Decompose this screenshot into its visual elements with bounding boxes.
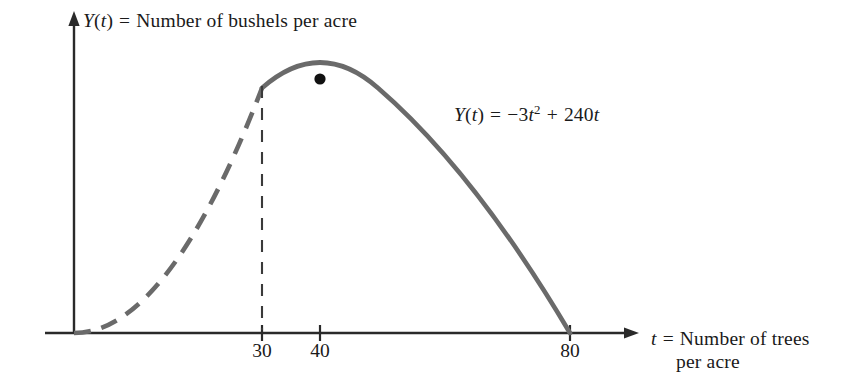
equation-linear-coefficient: 240 xyxy=(564,104,594,125)
x-tick-label-30: 30 xyxy=(252,340,272,362)
y-axis-label-paren-open: ( xyxy=(94,10,101,31)
equation-paren-open: ( xyxy=(465,104,472,125)
x-axis-label-equals: = xyxy=(657,328,680,349)
y-axis-label-variable: Y xyxy=(83,10,94,31)
x-axis-label: t=Number of trees per acre xyxy=(651,327,810,373)
curve-dashed-segment xyxy=(74,88,262,333)
x-axis-label-line2: per acre xyxy=(651,350,810,373)
equation-annotation: Y(t)=−3t2+240t xyxy=(454,103,599,126)
y-axis-label: Y(t)=Number of bushels per acre xyxy=(83,9,357,32)
x-axis xyxy=(45,327,639,338)
equation-exponent: 2 xyxy=(534,103,541,117)
y-axis-arrowhead xyxy=(68,11,79,26)
x-axis-label-variable: t xyxy=(651,328,657,349)
x-tick-label-80: 80 xyxy=(560,340,580,362)
y-axis xyxy=(68,11,79,333)
equation-plus: + xyxy=(541,104,564,125)
x-axis-arrowhead xyxy=(624,327,639,338)
y-axis-label-equals: = xyxy=(113,10,136,31)
equation-equals: = xyxy=(484,104,507,125)
equation-coefficient: 3 xyxy=(518,104,528,125)
x-tick-label-40: 40 xyxy=(310,340,330,362)
y-axis-label-text: Number of bushels per acre xyxy=(136,10,357,31)
vertex-marker-dot xyxy=(314,73,325,84)
x-axis-label-line1: Number of trees xyxy=(680,328,810,349)
equation-variable: Y xyxy=(454,104,465,125)
equation-linear-variable: t xyxy=(594,104,600,125)
equation-minus: − xyxy=(507,104,518,125)
